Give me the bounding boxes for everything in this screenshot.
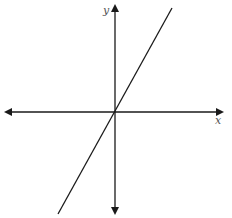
x-axis-label: x [215,114,222,127]
coordinate-plane: x y [0,0,232,218]
y-axis-label: y [102,4,110,17]
